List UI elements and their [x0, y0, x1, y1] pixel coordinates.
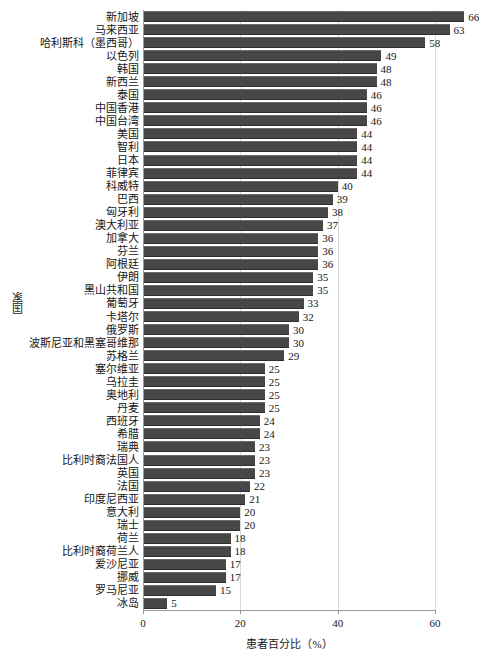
bar-row: 新西兰48 — [143, 76, 435, 87]
bar-value-label: 21 — [249, 494, 260, 505]
bar-row: 瑞士20 — [143, 520, 435, 531]
x-axis-title: 患者百分比（%） — [143, 638, 436, 650]
bar-row: 美国44 — [143, 128, 435, 139]
bar-row: 比利时裔法国人23 — [143, 455, 435, 466]
bar-row: 葡萄牙33 — [143, 298, 435, 309]
bar-row: 希腊24 — [143, 428, 435, 439]
bar-row: 芬兰36 — [143, 246, 435, 257]
bar-row: 乌拉圭25 — [143, 376, 435, 387]
bar — [143, 363, 265, 374]
bar-row: 比利时裔荷兰人18 — [143, 546, 435, 557]
bar — [143, 233, 318, 244]
bar-value-label: 20 — [244, 507, 255, 518]
bar-row: 伊朗35 — [143, 272, 435, 283]
category-label: 乌拉圭 — [106, 376, 139, 387]
bar — [143, 337, 289, 348]
bar — [143, 598, 167, 609]
bar-value-label: 58 — [429, 37, 440, 48]
bar-value-label: 22 — [254, 481, 265, 492]
bar — [143, 481, 250, 492]
bar-value-label: 15 — [220, 585, 231, 596]
bar — [143, 572, 226, 583]
x-axis-tick — [338, 610, 339, 614]
category-label: 法国 — [117, 481, 139, 492]
bar — [143, 63, 377, 74]
bar — [143, 285, 313, 296]
bar — [143, 324, 289, 335]
bar-value-label: 44 — [361, 168, 372, 179]
bar-value-label: 48 — [381, 63, 392, 74]
bar-value-label: 18 — [235, 546, 246, 557]
category-label: 瑞典 — [117, 441, 139, 452]
category-label: 新加坡 — [106, 11, 139, 22]
bar-value-label: 5 — [171, 598, 177, 609]
bar-value-label: 63 — [454, 24, 465, 35]
bar-row: 法国22 — [143, 481, 435, 492]
bar-value-label: 23 — [259, 455, 270, 466]
bar-value-label: 25 — [269, 363, 280, 374]
bar-value-label: 36 — [322, 259, 333, 270]
bar-row: 英国23 — [143, 468, 435, 479]
bar — [143, 311, 299, 322]
category-label: 中国台湾 — [95, 115, 139, 126]
bar-value-label: 37 — [327, 220, 338, 231]
bar-value-label: 25 — [269, 376, 280, 387]
bar — [143, 402, 265, 413]
bar — [143, 168, 357, 179]
bar-value-label: 46 — [371, 115, 382, 126]
bar-row: 塞尔维亚25 — [143, 363, 435, 374]
category-label: 意大利 — [106, 507, 139, 518]
bar — [143, 520, 240, 531]
bar-value-label: 23 — [259, 441, 270, 452]
bar-value-label: 44 — [361, 128, 372, 139]
bar — [143, 220, 323, 231]
category-label: 英国 — [117, 468, 139, 479]
category-label: 荷兰 — [117, 533, 139, 544]
category-label: 比利时裔荷兰人 — [62, 546, 139, 557]
bar-row: 科威特40 — [143, 181, 435, 192]
bar — [143, 259, 318, 270]
category-label: 黑山共和国 — [84, 285, 139, 296]
category-label: 澳大利亚 — [95, 220, 139, 231]
bar-row: 印度尼西亚21 — [143, 494, 435, 505]
x-axis-tick-label: 60 — [430, 617, 441, 629]
category-label: 芬兰 — [117, 246, 139, 257]
bar-row: 日本44 — [143, 155, 435, 166]
bar-row: 马来西亚63 — [143, 24, 435, 35]
bar-value-label: 30 — [293, 337, 304, 348]
bar — [143, 246, 318, 257]
bar-row: 荷兰18 — [143, 533, 435, 544]
bar-row: 匈牙利38 — [143, 207, 435, 218]
bar-value-label: 23 — [259, 468, 270, 479]
bar — [143, 155, 357, 166]
bar — [143, 441, 255, 452]
bar-value-label: 25 — [269, 389, 280, 400]
bar-row: 加拿大36 — [143, 233, 435, 244]
bar — [143, 559, 226, 570]
category-label: 希腊 — [117, 428, 139, 439]
bar — [143, 350, 284, 361]
bar-value-label: 48 — [381, 76, 392, 87]
bar-value-label: 32 — [303, 311, 314, 322]
bar-value-label: 44 — [361, 155, 372, 166]
bar-row: 苏格兰29 — [143, 350, 435, 361]
category-label: 哈利斯科（墨西哥） — [40, 37, 139, 48]
bar-row: 卡塔尔32 — [143, 311, 435, 322]
bar-value-label: 20 — [244, 520, 255, 531]
bar — [143, 194, 333, 205]
bar-value-label: 18 — [235, 533, 246, 544]
bar — [143, 50, 381, 61]
bar-row: 挪威17 — [143, 572, 435, 583]
bar-value-label: 36 — [322, 233, 333, 244]
bar-value-label: 24 — [264, 415, 275, 426]
bar-value-label: 33 — [308, 298, 319, 309]
x-axis-tick — [143, 610, 144, 614]
bar-row: 韩国48 — [143, 63, 435, 74]
category-label: 卡塔尔 — [106, 311, 139, 322]
bar — [143, 102, 367, 113]
bar-row: 俄罗斯30 — [143, 324, 435, 335]
x-axis-tick-label: 40 — [332, 617, 343, 629]
bar — [143, 207, 328, 218]
bar-row: 西班牙24 — [143, 415, 435, 426]
bar — [143, 468, 255, 479]
